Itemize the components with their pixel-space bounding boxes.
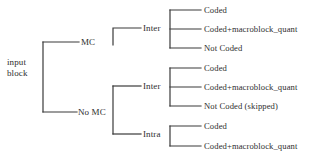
leaf-nomc-intra-coded-macroblock-quant: Coded+macroblock_quant — [204, 141, 297, 152]
leaf-mc-inter-not-coded: Not Coded — [204, 43, 242, 54]
mc-to-inter-line — [113, 28, 141, 45]
node-mc-inter: Inter — [143, 23, 161, 34]
leaf-nomc-inter-coded-macroblock-quant: Coded+macroblock_quant — [204, 82, 297, 93]
node-input-block-line1: input — [7, 57, 28, 68]
node-nomc-inter: Inter — [143, 81, 161, 92]
node-input-block-line2: block — [7, 68, 28, 79]
leaf-nomc-inter-coded: Coded — [204, 63, 227, 74]
node-no-mc: No MC — [78, 107, 106, 118]
leaf-mc-inter-coded-macroblock-quant: Coded+macroblock_quant — [204, 24, 297, 35]
node-input-block: input block — [7, 57, 28, 79]
coding-mode-tree-diagram: input block MC No MC Inter Inter Intra C… — [0, 0, 323, 156]
node-mc: MC — [81, 37, 95, 48]
leaf-mc-inter-coded: Coded — [204, 5, 227, 16]
node-nomc-intra: Intra — [143, 129, 161, 140]
leaf-nomc-inter-not-coded-skipped: Not Coded (skipped) — [204, 101, 278, 112]
leaf-nomc-intra-coded: Coded — [204, 121, 227, 132]
